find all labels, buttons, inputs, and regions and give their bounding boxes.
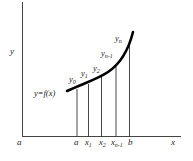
tick-label-b: b <box>128 137 133 147</box>
origin-label: a <box>17 137 22 147</box>
ordinate-label-yn-1: yn-1 <box>100 48 113 59</box>
curve-label: y=f(x) <box>33 88 55 98</box>
tick-label-a: a <box>74 137 79 147</box>
function-curve <box>67 32 133 91</box>
tick-label-xn-1: xn-1 <box>110 137 123 148</box>
tick-label-x1: x1 <box>84 137 92 148</box>
x-axis-label: x <box>170 137 175 147</box>
tick-label-x2: x2 <box>98 137 106 148</box>
ordinate-label-y1: y1 <box>80 68 88 79</box>
riemann-diagram: y x a y=f(x) a x1 x2 xn-1 b y0 y1 y2 yn-… <box>0 0 193 161</box>
ordinate-label-y0: y0 <box>68 74 76 85</box>
ordinate-label-y2: y2 <box>92 63 100 74</box>
y-axis-label: y <box>9 46 14 56</box>
ordinate-label-yn: yn <box>114 33 122 44</box>
